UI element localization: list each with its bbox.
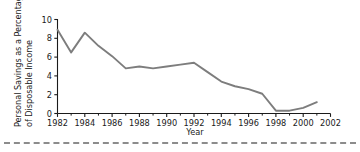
y-tick-label-group: 0246810	[42, 15, 52, 119]
tick-marks	[54, 20, 330, 117]
x-axis-label-wrap: Year	[0, 127, 360, 137]
chart-figure: Personal Savings as a Percentage of Disp…	[0, 0, 360, 152]
x-axis-label: Year	[156, 127, 203, 137]
y-tick-label: 10	[42, 15, 52, 25]
axis-lines	[58, 19, 331, 114]
y-tick-label: 2	[47, 90, 52, 100]
bottom-dashed-separator	[4, 142, 356, 144]
y-tick-label: 4	[47, 71, 52, 81]
data-line-personal-savings	[58, 30, 317, 111]
y-tick-label: 6	[47, 52, 52, 62]
y-tick-label: 8	[47, 33, 52, 43]
